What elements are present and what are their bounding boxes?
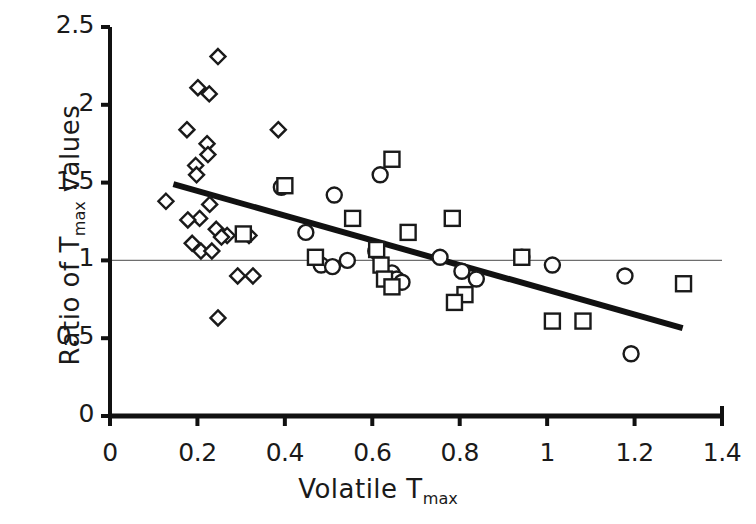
circle-marker [327, 188, 342, 203]
diamond-marker [204, 244, 219, 259]
square-marker [308, 250, 323, 265]
y-axis-title-main-b: values [55, 105, 85, 201]
diamond-marker [200, 147, 215, 162]
diamond-marker [202, 197, 217, 212]
square-marker [374, 258, 389, 273]
y-axis-title-main-a: Ratio of T [55, 236, 85, 365]
circle-marker [545, 258, 560, 273]
square-marker [445, 211, 460, 226]
y-axis-title-subscript: max [70, 201, 89, 236]
square-marker [514, 250, 529, 265]
x-tick-label: 0.2 [157, 438, 237, 467]
x-tick-label: 0.4 [245, 438, 325, 467]
square-marker [345, 211, 360, 226]
x-axis-title: Volatile Tmax [0, 474, 756, 508]
circle-marker [624, 346, 639, 361]
x-tick-label: 1 [507, 438, 587, 467]
diamond-marker [230, 268, 245, 283]
diamond-marker [180, 212, 195, 227]
x-axis-title-subscript: max [423, 489, 458, 508]
x-tick-label: 0.6 [332, 438, 412, 467]
circle-marker [433, 250, 448, 265]
regression-line [173, 184, 682, 328]
square-marker [236, 226, 251, 241]
x-tick-label: 1.2 [595, 438, 675, 467]
circle-marker [340, 253, 355, 268]
circle-marker [454, 264, 469, 279]
square-marker [545, 314, 560, 329]
diamond-marker [210, 310, 225, 325]
square-marker [447, 295, 462, 310]
diamond-marker [158, 194, 173, 209]
regression-trend-line [173, 184, 682, 328]
diamond-marker [271, 122, 286, 137]
y-axis-title: Ratio of Tmax values [55, 85, 89, 385]
x-tick-label: 1.4 [682, 438, 756, 467]
circle-marker [373, 167, 388, 182]
circle-marker [617, 268, 632, 283]
diamond-marker [210, 49, 225, 64]
circle-marker [325, 259, 340, 274]
square-marker [401, 225, 416, 240]
diamond-marker [245, 268, 260, 283]
square-marker [384, 152, 399, 167]
y-tick-label: 2.5 [34, 10, 94, 39]
circle-marker [298, 225, 313, 240]
diamond-marker [179, 122, 194, 137]
x-tick-label: 0 [70, 438, 150, 467]
x-tick-label: 0.8 [420, 438, 500, 467]
scatter-plot-figure: 00.511.522.5 00.20.40.60.811.21.4 Ratio … [0, 0, 756, 524]
circle-marker [469, 272, 484, 287]
square-marker [277, 178, 292, 193]
x-axis-title-main: Volatile T [298, 474, 423, 504]
square-marker [676, 276, 691, 291]
square-marker [369, 242, 384, 257]
y-tick-label: 0 [34, 399, 94, 428]
square-marker [384, 279, 399, 294]
square-marker [575, 314, 590, 329]
